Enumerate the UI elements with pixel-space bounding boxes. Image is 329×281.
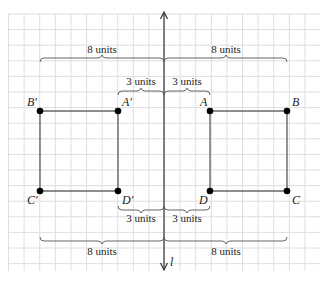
point-D-prime bbox=[115, 188, 122, 195]
point-D bbox=[207, 188, 214, 195]
point-C bbox=[284, 188, 291, 195]
measure-top-right-large: 8 units bbox=[211, 43, 241, 55]
reflection-line bbox=[161, 12, 168, 270]
label-B: B bbox=[292, 95, 300, 109]
label-A: A bbox=[199, 95, 208, 109]
point-B-prime bbox=[37, 108, 44, 115]
measure-top-left-small: 3 units bbox=[126, 75, 156, 87]
label-D-prime: D′ bbox=[121, 193, 134, 207]
point-C-prime bbox=[37, 188, 44, 195]
label-D: D bbox=[198, 193, 208, 207]
line-label: l bbox=[170, 255, 174, 269]
measure-bottom-left-small: 3 units bbox=[126, 212, 156, 224]
reflection-diagram: l 8 units 8 units 3 units 3 units A B C … bbox=[0, 0, 329, 281]
point-A-prime bbox=[115, 108, 122, 115]
measure-top-right-small: 3 units bbox=[172, 75, 202, 87]
point-B bbox=[284, 108, 291, 115]
measure-bottom-right-small: 3 units bbox=[172, 212, 202, 224]
label-A-prime: A′ bbox=[121, 95, 132, 109]
measure-top-left-large: 8 units bbox=[87, 43, 117, 55]
label-B-prime: B′ bbox=[27, 95, 37, 109]
brace-bottom-right-large bbox=[164, 237, 287, 244]
measure-bottom-right-large: 8 units bbox=[211, 245, 241, 257]
label-C: C bbox=[292, 193, 301, 207]
measure-bottom-left-large: 8 units bbox=[87, 245, 117, 257]
label-C-prime: C′ bbox=[27, 193, 38, 207]
point-A bbox=[207, 108, 214, 115]
